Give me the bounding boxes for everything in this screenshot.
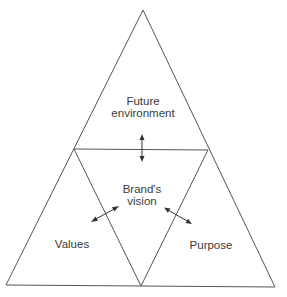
horizontal-divider — [74, 149, 208, 150]
values-label: Values — [55, 238, 90, 250]
brands-vision-label-line1: Brand's — [123, 183, 162, 195]
purpose-label: Purpose — [190, 239, 233, 251]
future-environment-label-line2: environment — [111, 107, 175, 119]
brand-vision-diagram: Future environment Brand's vision Values… — [0, 0, 287, 297]
vertical-double-arrow-icon — [140, 134, 145, 162]
inner-left-edge — [74, 149, 141, 286]
inner-right-edge — [141, 150, 208, 286]
outer-triangle — [6, 10, 275, 287]
brands-vision-label-line2: vision — [127, 195, 156, 207]
left-double-arrow-icon — [91, 206, 119, 222]
future-environment-label-line1: Future — [126, 95, 159, 107]
